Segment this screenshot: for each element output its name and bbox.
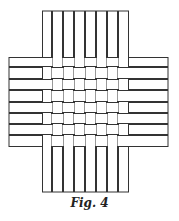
vertical-strip [108, 11, 118, 192]
weave-crossing-over [118, 91, 130, 101]
weave-crossing-over [96, 68, 108, 78]
weave-crossing-over [52, 91, 64, 101]
weave-crossing-over [42, 58, 53, 66]
weave-crossing-over [74, 136, 86, 146]
weave-crossing-over [42, 103, 53, 112]
weave-crossing-over [107, 103, 119, 112]
weave-crossing-over [96, 114, 108, 123]
weave-crossing-over [63, 80, 75, 89]
weave-crossing-over [85, 125, 97, 134]
weave-crossing-over [52, 68, 64, 78]
weave-crossing-over [96, 136, 108, 146]
weave-crossing-over [85, 103, 97, 112]
weave-crossing-over [74, 114, 86, 123]
weave-crossing-over [74, 68, 86, 78]
weave-crossing-over [96, 91, 108, 101]
weave-crossing-over [63, 58, 75, 66]
weave-crossing-over [85, 80, 97, 89]
vertical-strip [86, 11, 96, 192]
weave-crossing-over [74, 91, 86, 101]
weave-crossing-over [85, 58, 97, 66]
weave-crossing-over [52, 136, 64, 146]
weave-crossing-over [107, 80, 119, 89]
vertical-strip [64, 11, 74, 192]
weave-crossing-over [52, 114, 64, 123]
weave-diagram [0, 0, 179, 195]
weave-crossing-over [42, 125, 53, 134]
weave-crossing-over [42, 80, 53, 89]
weave-crossing-over [118, 136, 130, 146]
weave-crossing-over [107, 125, 119, 134]
weave-crossing-over [118, 68, 130, 78]
vertical-strip [43, 11, 52, 192]
figure-caption: Fig. 4 [0, 196, 179, 210]
weave-crossing-over [63, 103, 75, 112]
weave-crossing-over [118, 114, 130, 123]
weave-crossing-over [107, 58, 119, 66]
weave-crossing-over [63, 125, 75, 134]
